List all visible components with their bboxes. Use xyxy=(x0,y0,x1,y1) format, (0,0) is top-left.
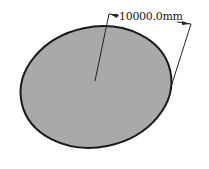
dimension-arrow-right-icon xyxy=(182,21,190,25)
circle-face[interactable] xyxy=(9,13,183,162)
circle-drawing xyxy=(0,0,209,169)
dimension-extension-right xyxy=(170,24,191,90)
dimension-arrow-left-icon xyxy=(110,14,118,18)
dimension-label[interactable]: 10000.0mm xyxy=(119,10,183,23)
drawing-canvas[interactable]: 10000.0mm xyxy=(0,0,209,169)
